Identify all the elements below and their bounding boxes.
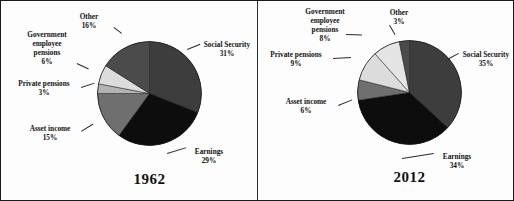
label-private-pensions-2012: Private pensions 9%	[258, 51, 334, 69]
label-social-security-name: Social Security	[204, 40, 250, 49]
label-gov-pensions-2012: Government employee pensions 8%	[292, 8, 358, 44]
pie-chart-2012[interactable]	[357, 40, 462, 145]
label-gov-pensions-1962: Government employee pensions 6%	[14, 31, 80, 67]
label-other-name: Other	[390, 8, 409, 17]
leader-line-private-pensions	[81, 83, 95, 88]
label-asset-income-name: Asset income	[286, 97, 327, 106]
label-social-security-pct: 31%	[199, 50, 255, 59]
label-other-name: Other	[80, 12, 99, 21]
label-gov-pensions-pct: 8%	[292, 35, 358, 44]
label-gov-pensions-line1: Government	[27, 30, 66, 39]
label-asset-income-1962: Asset income 15%	[18, 125, 82, 143]
label-earnings-name: Earnings	[443, 152, 471, 161]
label-other-pct: 16%	[63, 22, 115, 31]
chart-title-2012: 2012	[357, 169, 462, 186]
label-other-pct: 3%	[376, 18, 422, 27]
label-private-pensions-1962: Private pensions 3%	[6, 80, 82, 98]
chart-panel-2012: Other 3% Government employee pensions 8%…	[258, 1, 514, 201]
figure-container: Other 16% Government employee pensions 6…	[0, 0, 514, 201]
label-social-security-name: Social Security	[463, 50, 509, 59]
label-private-pensions-name: Private pensions	[270, 50, 321, 59]
leader-line-earnings	[402, 153, 434, 159]
label-asset-income-2012: Asset income 6%	[274, 98, 338, 116]
label-gov-pensions-line1: Government	[305, 7, 344, 16]
label-other-2012: Other 3%	[376, 9, 422, 27]
label-social-security-2012: Social Security 35%	[458, 51, 514, 69]
label-social-security-1962: Social Security 31%	[199, 41, 255, 59]
label-asset-income-name: Asset income	[30, 124, 71, 133]
label-asset-income-pct: 15%	[18, 134, 82, 143]
leader-line-private-pensions	[333, 57, 351, 59]
pie-chart-1962[interactable]	[97, 41, 202, 146]
chart-panel-1962: Other 16% Government employee pensions 6…	[1, 1, 257, 201]
label-private-pensions-pct: 9%	[258, 60, 334, 69]
label-earnings-pct: 29%	[185, 157, 233, 166]
label-private-pensions-pct: 3%	[6, 89, 82, 98]
label-other-1962: Other 16%	[63, 13, 115, 31]
label-earnings-1962: Earnings 29%	[185, 148, 233, 166]
leader-line-asset-income	[81, 124, 93, 132]
label-social-security-pct: 35%	[458, 60, 514, 69]
label-earnings-name: Earnings	[195, 147, 223, 156]
leader-line-earnings	[167, 147, 186, 154]
leader-line-asset-income	[338, 99, 352, 106]
label-gov-pensions-pct: 6%	[14, 58, 80, 67]
label-private-pensions-name: Private pensions	[18, 79, 69, 88]
chart-title-1962: 1962	[97, 171, 202, 188]
label-asset-income-pct: 6%	[274, 107, 338, 116]
